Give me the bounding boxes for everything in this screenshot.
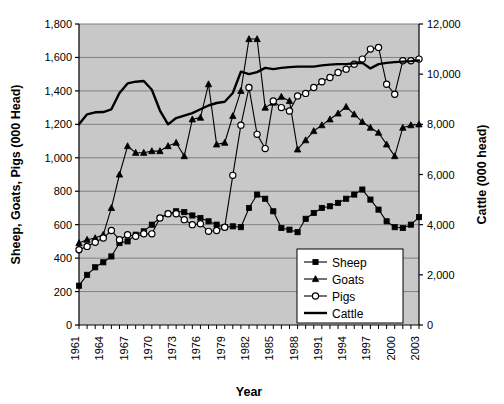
marker-square <box>84 272 89 277</box>
x-tick-label: 1994 <box>336 336 348 360</box>
x-tick-label: 1964 <box>93 336 105 360</box>
x-tick-label: 1970 <box>142 336 154 360</box>
marker-circle <box>384 81 390 87</box>
marker-square <box>303 216 308 221</box>
marker-circle <box>205 228 211 234</box>
y-tick-label-left: 0 <box>66 319 72 331</box>
legend-label-goats: Goats <box>332 273 364 287</box>
marker-circle <box>108 227 114 233</box>
x-tick-label: 1988 <box>288 336 300 360</box>
legend-label-sheep: Sheep <box>332 256 367 270</box>
marker-square <box>190 213 195 218</box>
marker-circle <box>141 231 147 237</box>
x-tick-label: 1997 <box>360 336 372 360</box>
marker-square <box>198 215 203 220</box>
marker-circle <box>100 235 106 241</box>
x-tick-label: 2003 <box>409 336 421 360</box>
y-axis-title-right: Cattle (000 head) <box>475 124 489 224</box>
marker-circle <box>238 122 244 128</box>
marker-circle <box>246 84 252 90</box>
marker-square <box>352 192 357 197</box>
marker-circle <box>286 108 292 114</box>
y-tick-label-left: 600 <box>54 219 72 231</box>
legend-label-pigs: Pigs <box>332 290 355 304</box>
marker-square <box>76 283 81 288</box>
y-tick-label-left: 800 <box>54 185 72 197</box>
marker-square <box>238 225 243 230</box>
marker-circle <box>149 231 155 237</box>
marker-square <box>263 196 268 201</box>
y-axis-right: 02,0004,0006,0008,00010,00012,000 <box>419 18 461 331</box>
marker-square <box>109 254 114 259</box>
marker-square <box>335 200 340 205</box>
marker-square <box>344 196 349 201</box>
x-tick-label: 1976 <box>190 336 202 360</box>
y-tick-label-left: 1,400 <box>44 85 72 97</box>
x-tick-label: 1991 <box>312 336 324 360</box>
y-axis-title-left: Sheep, Goats, Pigs (000 Head) <box>9 85 23 265</box>
marker-circle <box>327 74 333 80</box>
y-tick-label-left: 400 <box>54 252 72 264</box>
marker-circle <box>359 56 365 62</box>
marker-square <box>392 225 397 230</box>
y-tick-label-right: 10,000 <box>427 68 461 80</box>
marker-square <box>279 225 284 230</box>
marker-circle <box>197 221 203 227</box>
marker-circle <box>311 84 317 90</box>
marker-circle <box>319 79 325 85</box>
marker-square <box>287 227 292 232</box>
x-tick-label: 1961 <box>69 336 81 360</box>
marker-square <box>313 259 318 264</box>
marker-circle <box>133 233 139 239</box>
x-axis-title: Year <box>236 385 263 399</box>
marker-circle <box>335 69 341 75</box>
y-tick-label-right: 8,000 <box>427 118 455 130</box>
x-tick-label: 1982 <box>239 336 251 360</box>
marker-square <box>182 210 187 215</box>
marker-square <box>295 230 300 235</box>
x-tick-label: 1985 <box>263 336 275 360</box>
marker-square <box>400 225 405 230</box>
marker-circle <box>254 131 260 137</box>
marker-circle <box>189 222 195 228</box>
chart-container: 02004006008001,0001,2001,4001,6001,80002… <box>0 0 504 404</box>
marker-circle <box>157 215 163 221</box>
marker-square <box>246 205 251 210</box>
legend: SheepGoatsPigsCattle <box>297 249 403 323</box>
marker-square <box>319 205 324 210</box>
marker-square <box>408 222 413 227</box>
marker-circle <box>92 239 98 245</box>
marker-circle <box>375 44 381 50</box>
marker-square <box>311 210 316 215</box>
y-tick-label-right: 6,000 <box>427 169 455 181</box>
y-tick-label-left: 1,600 <box>44 51 72 63</box>
marker-square <box>254 192 259 197</box>
marker-circle <box>262 145 268 151</box>
marker-square <box>230 224 235 229</box>
marker-circle <box>76 247 82 253</box>
x-axis: 1961196419671970197319761979198219851988… <box>69 325 421 360</box>
marker-circle <box>124 232 130 238</box>
marker-square <box>327 204 332 209</box>
marker-circle <box>294 93 300 99</box>
y-tick-label-right: 2,000 <box>427 269 455 281</box>
marker-square <box>214 222 219 227</box>
y-tick-label-left: 1,200 <box>44 118 72 130</box>
marker-circle <box>84 243 90 249</box>
x-tick-label: 2000 <box>385 336 397 360</box>
marker-square <box>271 209 276 214</box>
marker-square <box>360 187 365 192</box>
y-axis-left: 02004006008001,0001,2001,4001,6001,800 <box>44 18 79 331</box>
y-tick-label-right: 4,000 <box>427 219 455 231</box>
marker-square <box>101 260 106 265</box>
y-tick-label-left: 1,000 <box>44 152 72 164</box>
marker-square <box>125 239 130 244</box>
marker-square <box>206 219 211 224</box>
x-tick-label: 1979 <box>215 336 227 360</box>
livestock-line-chart: 02004006008001,0001,2001,4001,6001,80002… <box>0 0 504 404</box>
marker-square <box>416 215 421 220</box>
marker-square <box>384 219 389 224</box>
marker-circle <box>173 211 179 217</box>
y-tick-label-right: 0 <box>427 319 433 331</box>
y-tick-label-left: 1,800 <box>44 18 72 30</box>
